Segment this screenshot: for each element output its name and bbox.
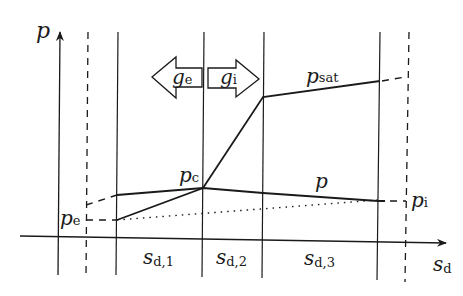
boundary-dashed-right <box>405 32 409 282</box>
p-sat-label: psat <box>306 64 339 88</box>
segment-label-3: sd,3 <box>304 246 335 270</box>
segment-label-1: sd,1 <box>143 245 174 269</box>
p-c-label: pc <box>179 163 199 187</box>
boundary-dashed-left <box>86 32 88 278</box>
boundary-1 <box>116 32 118 275</box>
linear-reference-dotted <box>117 200 378 220</box>
p-e-upper-dash <box>86 195 117 205</box>
boundary-4 <box>377 32 380 280</box>
pressure-profile-diagram: p ge gi psat pc p pe pi sd,1 sd,2 sd,3 s… <box>0 0 463 296</box>
segment-label-2: sd,2 <box>216 245 247 269</box>
y-axis-label: p <box>36 18 50 43</box>
y-axis <box>58 32 60 275</box>
p-e-label: pe <box>60 206 81 230</box>
p-sat-extension <box>382 77 405 81</box>
p-i-label: pi <box>411 188 428 212</box>
x-axis <box>20 236 446 243</box>
p-curve <box>117 188 385 201</box>
x-axis-label: sd <box>433 252 452 276</box>
p-label: p <box>315 169 328 193</box>
boundary-3 <box>262 32 264 278</box>
